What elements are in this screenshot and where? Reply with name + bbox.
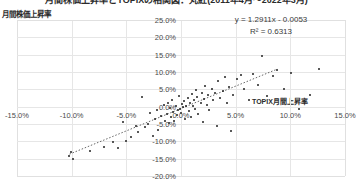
data-point [166, 113, 168, 115]
data-point [171, 99, 173, 101]
data-point [214, 92, 216, 94]
data-point [240, 74, 242, 76]
data-point [272, 75, 274, 77]
data-point [216, 125, 218, 127]
y-tick-label: -10.0% [0, 137, 176, 146]
data-point [196, 96, 198, 98]
data-point [149, 112, 151, 114]
x-gridline [345, 20, 346, 176]
y-tick-label: 15.0% [0, 50, 176, 59]
data-point [206, 104, 208, 106]
data-point [203, 98, 205, 100]
data-point [261, 55, 263, 57]
y-tick-label: 20.0% [0, 33, 176, 42]
data-point [204, 85, 206, 87]
data-point [117, 147, 119, 149]
y-tick-label: -15.0% [0, 154, 176, 163]
data-point [187, 97, 189, 99]
data-point [212, 99, 214, 101]
x-tick-label: 5.0% [227, 111, 244, 120]
data-point [226, 102, 228, 104]
data-point [160, 115, 162, 117]
data-point [248, 99, 250, 101]
data-point [309, 94, 311, 96]
plot-area [17, 20, 345, 176]
data-point [194, 108, 196, 110]
data-point [183, 100, 185, 102]
data-point [219, 97, 221, 99]
data-point [202, 121, 204, 123]
r-squared-value: R² = 0.6313 [196, 26, 346, 38]
data-point [193, 99, 195, 101]
data-point [190, 116, 192, 118]
data-point [232, 94, 234, 96]
data-point [243, 88, 245, 90]
data-point [201, 92, 203, 94]
data-point [137, 131, 139, 133]
y-tick-label: 0.0% [0, 102, 176, 111]
data-point [141, 96, 143, 98]
data-point [185, 105, 187, 107]
data-point [179, 108, 181, 110]
data-point [191, 93, 193, 95]
data-point [70, 151, 72, 153]
data-point [103, 146, 105, 148]
data-point [266, 95, 268, 97]
data-point [230, 130, 232, 132]
data-point [224, 76, 226, 78]
data-point [197, 113, 199, 115]
data-point [236, 78, 238, 80]
trendline [17, 20, 345, 176]
data-point [182, 106, 184, 108]
y-tick-label: -5.0% [0, 120, 176, 129]
data-point [189, 102, 191, 104]
y-tick-label: -20.0% [0, 172, 176, 181]
data-point [181, 103, 183, 105]
chart-title: 月間株価上昇率とTOPIXの相関図：丸紅(2011年4月～2022年3月) [0, 0, 353, 6]
data-point [89, 150, 91, 152]
data-point [222, 90, 224, 92]
x-tick-label: 15.0% [334, 111, 355, 120]
data-point [290, 72, 292, 74]
data-point [195, 89, 197, 91]
x-tick-label: 10.0% [280, 111, 301, 120]
regression-equation: y = 1.2911x - 0.0053 [235, 15, 308, 24]
data-point [276, 69, 278, 71]
data-point [207, 94, 209, 96]
data-point [257, 84, 259, 86]
data-point [178, 95, 180, 97]
y-tick-label: 25.0% [0, 16, 176, 25]
data-point [211, 88, 213, 90]
y-tick-label: 5.0% [0, 85, 176, 94]
data-point [252, 73, 254, 75]
y-tick-label: 10.0% [0, 68, 176, 77]
data-point [192, 105, 194, 107]
data-point [157, 129, 159, 131]
data-point [318, 68, 320, 70]
data-point [228, 86, 230, 88]
data-point [217, 80, 219, 82]
trendline-annotation: y = 1.2911x - 0.0053 R² = 0.6313 [196, 14, 346, 38]
data-point [200, 102, 202, 104]
data-point [283, 88, 285, 90]
data-point [208, 109, 210, 111]
